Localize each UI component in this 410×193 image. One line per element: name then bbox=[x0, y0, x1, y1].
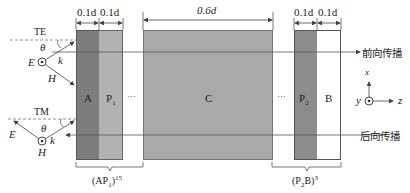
te-e: E bbox=[28, 56, 35, 68]
ellipsis-2: ··· bbox=[277, 91, 286, 101]
label-p1: P1 bbox=[106, 92, 116, 107]
tm-title: TM bbox=[34, 106, 49, 117]
dim-b: 0.1d bbox=[318, 6, 337, 18]
tm-theta: θ bbox=[41, 122, 46, 134]
te-title: TE bbox=[34, 26, 46, 37]
te-h: H bbox=[48, 72, 56, 84]
forward-propagation-label: 前向传播 bbox=[362, 45, 402, 60]
ellipsis-1: ··· bbox=[127, 91, 136, 101]
te-theta: θ bbox=[40, 41, 45, 53]
label-p2: P2 bbox=[299, 92, 309, 107]
label-a: A bbox=[84, 92, 92, 104]
group-right-label: (P2B)3 bbox=[292, 174, 318, 189]
label-b: B bbox=[325, 92, 332, 104]
axis-x-label: x bbox=[365, 67, 369, 77]
axis-y-label: y bbox=[356, 94, 361, 106]
tm-h: H bbox=[38, 146, 46, 158]
dim-p1: 0.1d bbox=[100, 6, 119, 18]
label-c: C bbox=[205, 92, 212, 104]
axis-z-label: z bbox=[398, 94, 402, 106]
te-k: k bbox=[58, 54, 63, 66]
dim-c: 0.6d bbox=[197, 4, 216, 16]
backward-propagation-label: 后向传播 bbox=[360, 128, 400, 143]
tm-k: k bbox=[50, 134, 55, 146]
group-left-label: (AP1)15 bbox=[92, 174, 122, 189]
dim-p2: 0.1d bbox=[294, 6, 313, 18]
tm-e: E bbox=[9, 128, 16, 140]
dim-a: 0.1d bbox=[77, 6, 96, 18]
